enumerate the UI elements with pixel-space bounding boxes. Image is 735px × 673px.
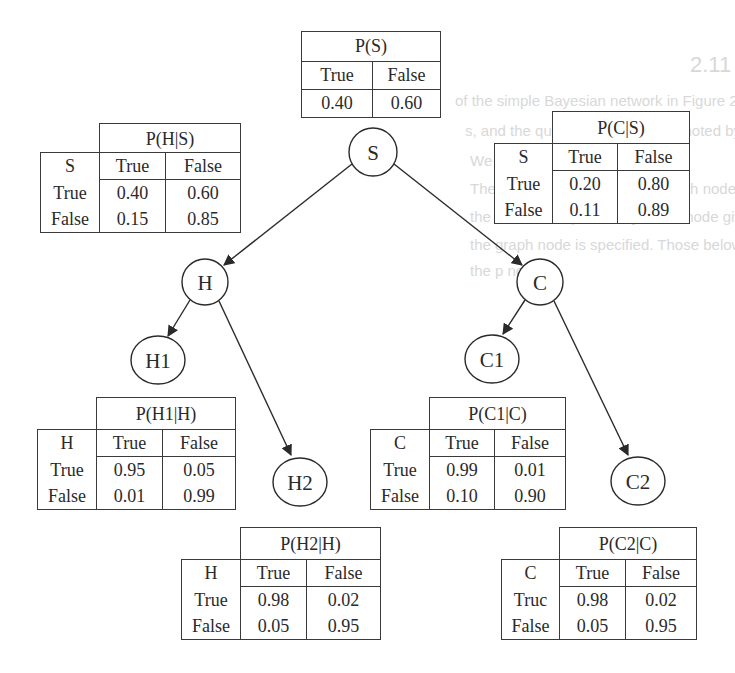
cell-value: 0.11 bbox=[553, 197, 618, 224]
cell-value: 0.60 bbox=[373, 90, 441, 118]
cpt-table: S True False True 0.40 0.60 False 0.15 0… bbox=[40, 152, 241, 233]
cell-value: 0.99 bbox=[163, 483, 236, 510]
cell-value: 0.02 bbox=[626, 587, 697, 614]
parent-variable-label: C bbox=[371, 430, 430, 457]
cpt-title: P(S) bbox=[302, 32, 441, 62]
node-s: S bbox=[349, 128, 397, 176]
row-label: False bbox=[182, 613, 241, 640]
parent-variable-label: H bbox=[182, 560, 241, 587]
cell-value: 0.05 bbox=[163, 457, 236, 484]
parent-variable-label: S bbox=[495, 144, 553, 171]
row-label: True bbox=[371, 457, 430, 484]
cell-value: 0.95 bbox=[307, 613, 381, 640]
column-header-false: False bbox=[373, 62, 441, 90]
row-label: True bbox=[182, 587, 241, 614]
cell-value: 0.60 bbox=[166, 180, 241, 207]
column-header-true: True bbox=[553, 144, 618, 171]
cell-value: 0.01 bbox=[97, 483, 163, 510]
cell-value: 0.02 bbox=[307, 587, 381, 614]
node-h1: H1 bbox=[131, 336, 185, 384]
cell-value: 0.05 bbox=[241, 613, 307, 640]
cell-value: 0.10 bbox=[430, 483, 495, 510]
cell-value: 0.85 bbox=[166, 206, 241, 233]
cell-value: 0.90 bbox=[495, 483, 566, 510]
column-header-true: True bbox=[97, 430, 163, 457]
cpt-table: C True False Truc 0.98 0.02 False 0.05 0… bbox=[501, 559, 697, 640]
row-label: True bbox=[495, 171, 553, 198]
cell-value: 0.80 bbox=[618, 171, 690, 198]
row-label: Truc bbox=[502, 587, 560, 614]
cpt-title: P(C2|C) bbox=[559, 527, 697, 560]
column-header-false: False bbox=[495, 430, 566, 457]
cell-value: 0.98 bbox=[560, 587, 626, 614]
cell-value: 0.05 bbox=[560, 613, 626, 640]
row-label: True bbox=[41, 180, 100, 207]
parent-variable-label: S bbox=[41, 153, 100, 180]
column-header-false: False bbox=[618, 144, 690, 171]
cell-value: 0.20 bbox=[553, 171, 618, 198]
column-header-true: True bbox=[560, 560, 626, 587]
cell-value: 0.40 bbox=[100, 180, 166, 207]
node-h2-label: H2 bbox=[287, 471, 313, 495]
cpt-table: H True False True 0.98 0.02 False 0.05 0… bbox=[181, 559, 381, 640]
cell-value: 0.99 bbox=[430, 457, 495, 484]
cell-value: 0.01 bbox=[495, 457, 566, 484]
cell-value: 0.40 bbox=[302, 90, 373, 118]
cpt-title: P(H|S) bbox=[99, 123, 241, 153]
node-c1-label: C1 bbox=[480, 348, 505, 372]
cell-value: 0.95 bbox=[97, 457, 163, 484]
column-header-true: True bbox=[302, 62, 373, 90]
node-c2: C2 bbox=[611, 457, 665, 505]
edge-c-c1 bbox=[503, 300, 525, 334]
row-label: False bbox=[38, 483, 97, 510]
cpt-title: P(H1|H) bbox=[96, 397, 236, 430]
cpt-p-s-table: P(S) True False 0.40 0.60 bbox=[301, 31, 441, 118]
node-c2-label: C2 bbox=[626, 470, 651, 494]
column-header-true: True bbox=[430, 430, 495, 457]
row-label: True bbox=[38, 457, 97, 484]
column-header-true: True bbox=[100, 153, 166, 180]
node-c1: C1 bbox=[465, 335, 519, 383]
row-label: False bbox=[495, 197, 553, 224]
cpt-table: S True False True 0.20 0.80 False 0.11 0… bbox=[494, 143, 690, 224]
row-label: False bbox=[502, 613, 560, 640]
cpt-title: P(C|S) bbox=[552, 111, 690, 144]
node-h2: H2 bbox=[273, 458, 327, 506]
cpt-title: P(C1|C) bbox=[429, 397, 566, 430]
cpt-table: H True False True 0.95 0.05 False 0.01 0… bbox=[37, 429, 236, 510]
cell-value: 0.15 bbox=[100, 206, 166, 233]
edge-h-h1 bbox=[168, 300, 190, 336]
parent-variable-label: H bbox=[38, 430, 97, 457]
cpt-title: P(H2|H) bbox=[240, 527, 381, 560]
row-label: False bbox=[371, 483, 430, 510]
node-h: H bbox=[182, 259, 228, 305]
column-header-false: False bbox=[166, 153, 241, 180]
node-c: C bbox=[517, 259, 563, 305]
row-label: False bbox=[41, 206, 100, 233]
cell-value: 0.98 bbox=[241, 587, 307, 614]
column-header-false: False bbox=[307, 560, 381, 587]
column-header-true: True bbox=[241, 560, 307, 587]
node-c-label: C bbox=[533, 271, 547, 295]
column-header-false: False bbox=[163, 430, 236, 457]
cell-value: 0.89 bbox=[618, 197, 690, 224]
parent-variable-label: C bbox=[502, 560, 560, 587]
cell-value: 0.95 bbox=[626, 613, 697, 640]
node-h-label: H bbox=[197, 271, 212, 295]
node-s-label: S bbox=[367, 141, 379, 165]
node-h1-label: H1 bbox=[145, 349, 171, 373]
column-header-false: False bbox=[626, 560, 697, 587]
edge-s-h bbox=[224, 164, 352, 265]
cpt-table: C True False True 0.99 0.01 False 0.10 0… bbox=[370, 429, 566, 510]
